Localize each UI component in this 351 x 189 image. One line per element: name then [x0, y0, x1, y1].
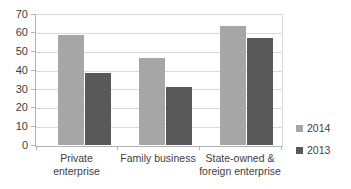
- bar-2013-state-owned-foreign-enterprise[interactable]: [247, 38, 273, 145]
- y-tick-label-70: 70: [16, 9, 28, 20]
- bar-2014-private-enterprise[interactable]: [58, 35, 84, 145]
- x-axis-label-private-enterprise: Private enterprise: [36, 152, 117, 178]
- y-axis: 70 60 50 40 30 20 10 0: [0, 0, 33, 189]
- y-tick-label-60: 60: [16, 27, 28, 38]
- y-tick-label-50: 50: [16, 46, 28, 57]
- x-axis-label-family-business: Family business: [117, 152, 199, 165]
- y-tick-label-10: 10: [16, 121, 28, 132]
- legend: 2014 2013: [296, 120, 351, 164]
- legend-label-2014: 2014: [307, 123, 330, 134]
- y-tick-label-20: 20: [16, 102, 28, 113]
- legend-item-2014[interactable]: 2014: [296, 120, 351, 136]
- bar-chart: 70 60 50 40 30 20 10 0: [0, 0, 351, 189]
- bar-group-family-business: [139, 15, 192, 145]
- bar-group-private-enterprise: [58, 15, 111, 145]
- y-tick-label-40: 40: [16, 65, 28, 76]
- x-axis-tick: [117, 146, 118, 150]
- bar-2014-family-business[interactable]: [139, 58, 165, 145]
- legend-label-2013: 2013: [307, 145, 330, 156]
- x-axis-label-state-owned-foreign-enterprise: State-owned & foreign enterprise: [197, 152, 283, 178]
- bars-layer: [36, 15, 281, 145]
- legend-swatch-icon-2014: [296, 125, 303, 132]
- bar-2013-private-enterprise[interactable]: [85, 73, 111, 145]
- legend-swatch-icon-2013: [296, 147, 303, 154]
- bar-group-state-owned-foreign-enterprise: [220, 15, 273, 145]
- legend-item-2013[interactable]: 2013: [296, 142, 351, 158]
- bar-2013-family-business[interactable]: [166, 87, 192, 145]
- y-tick-label-0: 0: [22, 140, 28, 151]
- y-tick-label-30: 30: [16, 84, 28, 95]
- x-axis-tick: [36, 146, 37, 150]
- x-axis-tick: [199, 146, 200, 150]
- bar-2014-state-owned-foreign-enterprise[interactable]: [220, 26, 246, 145]
- x-axis-tick: [281, 146, 282, 150]
